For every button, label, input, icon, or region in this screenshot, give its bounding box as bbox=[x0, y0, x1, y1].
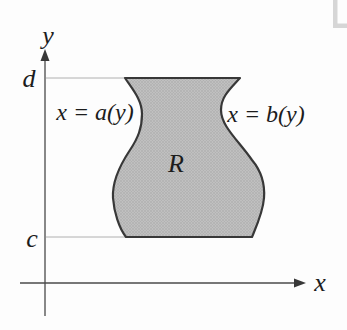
upper-bound-d-label: d bbox=[23, 64, 37, 93]
x-axis-label: x bbox=[313, 268, 326, 297]
page-corner-accent bbox=[333, 0, 347, 28]
left-curve-equation-label: x = a(y) bbox=[55, 99, 133, 125]
integration-region-figure: y x d c R x = a(y) x = b(y) bbox=[0, 0, 347, 330]
x-axis-arrowhead-icon bbox=[294, 279, 306, 288]
figure-canvas: y x d c R x = a(y) x = b(y) bbox=[0, 0, 347, 330]
y-axis-label: y bbox=[39, 21, 54, 50]
region-R-label: R bbox=[167, 149, 184, 178]
y-axis-arrowhead-icon bbox=[41, 49, 50, 61]
lower-bound-c-label: c bbox=[26, 224, 38, 253]
right-curve-equation-label: x = b(y) bbox=[226, 101, 304, 127]
